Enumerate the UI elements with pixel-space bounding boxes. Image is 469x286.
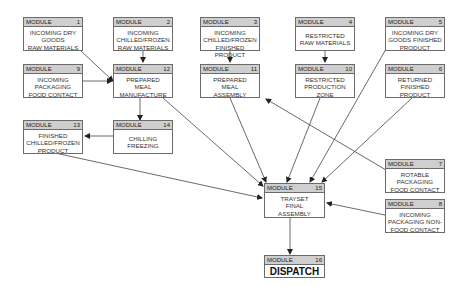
module-title: FINISHED CHILLED/FROZEN PRODUCT (24, 130, 82, 155)
arrow-7-to-11 (266, 99, 386, 170)
module-label: MODULE (388, 65, 414, 73)
module-title: ROTABLE PACKAGING FOOD CONTACT (386, 169, 444, 194)
arrow-12-to-15 (163, 98, 263, 186)
module-label: MODULE (203, 18, 229, 26)
module-label: MODULE (388, 18, 414, 26)
module-header: MODULE5 (386, 18, 444, 27)
module-title: INCOMING CHILLED/FROZEN FINISHED PRODUCT (201, 27, 259, 59)
module-4: MODULE4 RESTRICTED RAW MATERIALS (295, 17, 355, 51)
module-number: 9 (77, 65, 80, 73)
module-title: RESTRICTED RAW MATERIALS (296, 27, 354, 48)
module-number: 6 (439, 65, 442, 73)
module-number: 14 (163, 121, 170, 129)
module-number: 13 (73, 121, 80, 129)
module-header: MODULE12 (114, 65, 172, 74)
module-title: PREPARED MEAL MANUFACTURE (114, 74, 172, 99)
module-label: MODULE (26, 121, 52, 129)
module-header: MODULE11 (201, 65, 259, 74)
module-16: MODULE16 DISPATCH (264, 255, 325, 278)
module-title: DISPATCH (265, 265, 324, 279)
module-6: MODULE6 RETURNED FINISHED PRODUCT (385, 64, 445, 98)
module-number: 5 (439, 18, 442, 26)
module-label: MODULE (26, 18, 52, 26)
module-10: MODULE10 RESTRICTED PRODUCTION ZONE (295, 64, 355, 98)
module-title: INCOMING PACKAGING FOOD CONTACT (24, 74, 82, 99)
module-11: MODULE11 PREPARED MEAL ASSEMBLY (200, 64, 260, 98)
module-label: MODULE (203, 65, 229, 73)
module-3: MODULE3 INCOMING CHILLED/FROZEN FINISHED… (200, 17, 260, 51)
module-number: 15 (315, 184, 322, 192)
module-number: 3 (254, 18, 257, 26)
module-header: MODULE8 (386, 200, 444, 209)
module-number: 2 (167, 18, 170, 26)
module-header: MODULE4 (296, 18, 354, 27)
module-title: TRAYSET FINAL ASSEMBLY (265, 193, 324, 218)
module-12: MODULE12 PREPARED MEAL MANUFACTURE (113, 64, 173, 98)
arrow-10-to-15 (287, 98, 320, 182)
module-number: 4 (349, 18, 352, 26)
module-13: MODULE13 FINISHED CHILLED/FROZEN PRODUCT (23, 120, 83, 154)
module-7: MODULE7 ROTABLE PACKAGING FOOD CONTACT (385, 159, 445, 193)
module-header: MODULE3 (201, 18, 259, 27)
module-header: MODULE13 (24, 121, 82, 130)
module-14: MODULE14 CHILLING FREEZING (113, 120, 173, 154)
module-label: MODULE (388, 200, 414, 208)
module-label: MODULE (267, 256, 293, 264)
module-number: 10 (345, 65, 352, 73)
module-number: 12 (163, 65, 170, 73)
module-label: MODULE (116, 18, 142, 26)
module-number: 8 (439, 200, 442, 208)
module-label: MODULE (388, 160, 414, 168)
module-title: CHILLING FREEZING (114, 130, 172, 151)
arrow-11-to-15 (230, 98, 266, 182)
module-header: MODULE15 (265, 184, 324, 193)
module-title: INCOMING CHILLED/FROZEN RAW MATERIALS (114, 27, 172, 52)
module-title: RESTRICTED PRODUCTION ZONE (296, 74, 354, 99)
module-label: MODULE (26, 65, 52, 73)
module-header: MODULE1 (24, 18, 82, 27)
module-header: MODULE10 (296, 65, 354, 74)
module-title: INCOMING DRY GOODS RAW MATERIALS (24, 27, 82, 52)
module-label: MODULE (267, 184, 293, 192)
module-1: MODULE1 INCOMING DRY GOODS RAW MATERIALS (23, 17, 83, 51)
module-header: MODULE16 (265, 256, 324, 265)
module-title: INCOMING DRY GOODS FINISHED PRODUCT (386, 27, 444, 52)
module-header: MODULE14 (114, 121, 172, 130)
module-label: MODULE (298, 65, 324, 73)
module-header: MODULE7 (386, 160, 444, 169)
module-header: MODULE9 (24, 65, 82, 74)
arrow-13-to-15 (55, 153, 262, 198)
module-title: PREPARED MEAL ASSEMBLY (201, 74, 259, 99)
arrow-1-to-12 (80, 50, 113, 81)
module-number: 7 (439, 160, 442, 168)
module-9: MODULE9 INCOMING PACKAGING FOOD CONTACT (23, 64, 83, 98)
module-header: MODULE2 (114, 18, 172, 27)
module-title: RETURNED FINISHED PRODUCT (386, 74, 444, 99)
module-number: 1 (77, 18, 80, 26)
module-number: 11 (251, 65, 257, 73)
module-header: MODULE6 (386, 65, 444, 74)
arrow-8-to-15 (327, 203, 385, 215)
module-5: MODULE5 INCOMING DRY GOODS FINISHED PROD… (385, 17, 445, 51)
module-label: MODULE (298, 18, 324, 26)
module-number: 16 (315, 256, 322, 264)
module-label: MODULE (116, 121, 142, 129)
module-8: MODULE8 INCOMING PACKAGING NON- FOOD CON… (385, 199, 445, 233)
module-title: INCOMING PACKAGING NON- FOOD CONTACT (386, 209, 444, 234)
module-15: MODULE15 TRAYSET FINAL ASSEMBLY (264, 183, 325, 218)
module-2: MODULE2 INCOMING CHILLED/FROZEN RAW MATE… (113, 17, 173, 51)
module-label: MODULE (116, 65, 142, 73)
